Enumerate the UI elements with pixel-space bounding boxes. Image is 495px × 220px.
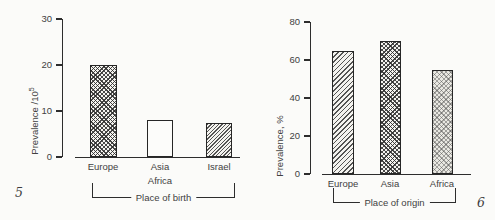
y-tick xyxy=(56,110,62,111)
y-tick xyxy=(304,135,310,136)
bar-europe xyxy=(90,65,117,157)
bar-label: Africa xyxy=(407,178,477,190)
bar-africa xyxy=(432,70,453,175)
y-axis-title-exponent: 5 xyxy=(28,87,35,91)
y-axis xyxy=(62,19,63,157)
y-tick-label: 30 xyxy=(28,13,52,25)
y-tick xyxy=(304,173,310,174)
figure-canvas: Prevalence /105 Place of birth 0102030Eu… xyxy=(0,0,495,220)
y-tick-label: 20 xyxy=(28,59,52,71)
figure-number-6: 6 xyxy=(477,195,485,210)
y-tick xyxy=(56,64,62,65)
y-axis xyxy=(310,22,311,174)
y-tick-label: 0 xyxy=(276,168,300,180)
bar-israel xyxy=(206,123,232,158)
x-baseline xyxy=(322,174,471,175)
x-axis-group-title: Place of origin xyxy=(359,197,429,208)
y-tick xyxy=(56,156,62,157)
x-baseline xyxy=(75,157,240,158)
y-tick-label: 60 xyxy=(276,54,300,66)
y-tick xyxy=(304,59,310,60)
y-tick-label: 0 xyxy=(28,151,52,163)
y-tick xyxy=(56,18,62,19)
y-axis-title: Prevalence /105 xyxy=(28,87,40,154)
y-tick xyxy=(304,97,310,98)
bar-label: Israel xyxy=(184,161,254,173)
place-of-origin-bracket: Place of origin xyxy=(333,188,456,203)
x-axis-group-title: Place of birth xyxy=(131,192,196,203)
y-tick-label: 80 xyxy=(276,16,300,28)
bar-asia xyxy=(380,41,401,174)
y-tick-label: 10 xyxy=(28,105,52,117)
figure-number-5: 5 xyxy=(15,185,23,200)
bar-asia-africa xyxy=(147,120,173,157)
y-tick-label: 40 xyxy=(276,92,300,104)
y-tick xyxy=(304,21,310,22)
bar-label: Africa xyxy=(125,175,195,187)
bar-europe xyxy=(332,51,354,175)
y-axis-title-text: Prevalence /10 xyxy=(29,91,40,154)
y-tick-label: 20 xyxy=(276,130,300,142)
